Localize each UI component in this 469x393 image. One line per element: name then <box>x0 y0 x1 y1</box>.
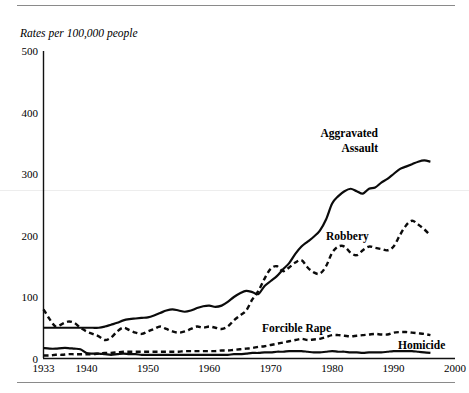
x-tick-labels: 19331940195019601970198019902000 <box>33 362 467 374</box>
label-aggravated-assault-line1: Aggravated <box>321 127 379 140</box>
y-tick-200: 200 <box>22 230 39 242</box>
series-aggravated-assault <box>44 160 431 327</box>
series-robbery <box>44 221 431 340</box>
series-layer <box>44 160 431 355</box>
y-tick-500: 500 <box>22 45 39 57</box>
series-annotations: Aggravated Assault Robbery Forcible Rape… <box>262 127 445 351</box>
x-tick-1980: 1980 <box>321 362 344 374</box>
label-robbery: Robbery <box>326 230 369 243</box>
y-tick-400: 400 <box>22 107 39 119</box>
y-tick-100: 100 <box>22 291 39 303</box>
line-chart: Rates per 100,000 people 010020030040050… <box>0 0 469 393</box>
x-tick-1970: 1970 <box>260 362 283 374</box>
x-tick-1933: 1933 <box>33 362 56 374</box>
x-tick-1950: 1950 <box>137 362 160 374</box>
y-tick-300: 300 <box>22 168 39 180</box>
x-tick-1940: 1940 <box>75 362 98 374</box>
x-tick-2000: 2000 <box>444 362 467 374</box>
x-tick-1990: 1990 <box>383 362 406 374</box>
y-tick-labels: 0100200300400500 <box>22 45 39 365</box>
label-aggravated-assault-line2: Assault <box>342 142 379 154</box>
x-tick-1960: 1960 <box>198 362 221 374</box>
label-homicide: Homicide <box>398 339 445 351</box>
figure-container: Rates per 100,000 people 010020030040050… <box>0 0 469 393</box>
y-axis-title: Rates per 100,000 people <box>19 27 138 40</box>
label-forcible-rape: Forcible Rape <box>262 322 331 335</box>
